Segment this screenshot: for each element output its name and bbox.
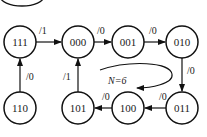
transition-000-001: /0 xyxy=(94,25,111,42)
svg-text:N=6: N=6 xyxy=(107,75,126,86)
partial-ellipse xyxy=(0,0,44,6)
svg-text:/0: /0 xyxy=(102,91,110,102)
transition-010-011: /0 xyxy=(182,58,195,91)
svg-text:001: 001 xyxy=(120,36,137,48)
state-diagram: 111 000 001 010 110 101 100 011 /1 /0 /0 xyxy=(0,0,207,137)
svg-text:110: 110 xyxy=(12,102,29,114)
svg-text:/0: /0 xyxy=(187,65,195,76)
svg-text:/1: /1 xyxy=(63,71,71,82)
svg-text:011: 011 xyxy=(174,102,190,114)
svg-text:111: 111 xyxy=(12,36,28,48)
state-011: 011 xyxy=(166,92,198,124)
state-010: 010 xyxy=(166,26,198,58)
svg-text:010: 010 xyxy=(174,36,191,48)
svg-text:100: 100 xyxy=(120,102,137,114)
svg-text:/0: /0 xyxy=(26,71,34,82)
svg-text:/0: /0 xyxy=(97,25,105,36)
svg-text:/1: /1 xyxy=(39,25,47,36)
cycle-annotation: N=6 xyxy=(100,64,172,88)
svg-text:/0: /0 xyxy=(159,91,167,102)
state-101: 101 xyxy=(62,92,94,124)
svg-text:000: 000 xyxy=(70,36,87,48)
state-100: 100 xyxy=(112,92,144,124)
transition-001-010: /0 xyxy=(144,25,165,42)
transition-011-100: /0 xyxy=(145,91,167,108)
svg-text:101: 101 xyxy=(70,102,87,114)
state-000: 000 xyxy=(62,26,94,58)
state-001: 001 xyxy=(112,26,144,58)
transition-100-101: /0 xyxy=(95,91,112,108)
state-110: 110 xyxy=(4,92,36,124)
svg-text:/0: /0 xyxy=(149,25,157,36)
transition-101-000: /1 xyxy=(63,59,78,92)
state-111: 111 xyxy=(4,26,36,58)
transition-110-111: /0 xyxy=(20,59,34,92)
transition-111-000: /1 xyxy=(36,25,61,42)
